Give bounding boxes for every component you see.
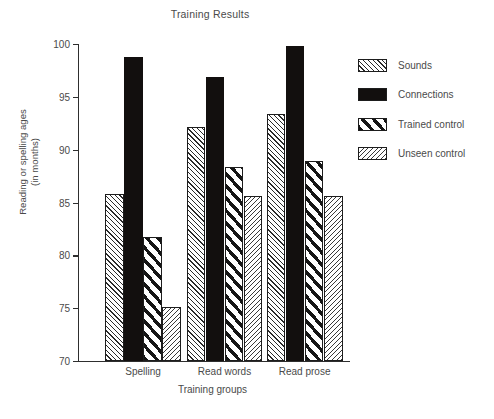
- legend-item-sounds[interactable]: Sounds: [358, 58, 490, 72]
- y-axis-title-line2: (in months): [29, 97, 41, 227]
- x-axis-line: [78, 361, 350, 362]
- legend-label: Trained control: [398, 119, 464, 130]
- y-axis-title: Reading or spelling ages (in months): [17, 97, 41, 227]
- y-tick-label: 90: [44, 144, 70, 155]
- x-group-label-read-prose: Read prose: [279, 366, 331, 377]
- plot-area: [79, 44, 346, 361]
- bar-sounds-read-words: [187, 127, 206, 361]
- y-tick-label: 95: [44, 91, 70, 102]
- x-axis-title: Training groups: [79, 384, 346, 395]
- x-group-label-read-words: Read words: [198, 366, 251, 377]
- chart-container: Training Results 707580859095100 Reading…: [0, 0, 494, 419]
- y-tick-label: 85: [44, 197, 70, 208]
- y-tick-label: 70: [44, 356, 70, 367]
- legend-label: Unseen control: [398, 148, 465, 159]
- bar-trained-control-spelling: [143, 237, 162, 361]
- bar-unseen-control-spelling: [162, 307, 181, 361]
- y-tick-mark: [73, 361, 79, 362]
- chart-legend: SoundsConnectionsTrained controlUnseen c…: [358, 58, 490, 176]
- bar-unseen-control-read-prose: [324, 196, 343, 361]
- bar-connections-spelling: [124, 57, 143, 361]
- legend-swatch-icon: [358, 118, 387, 131]
- legend-item-connections[interactable]: Connections: [358, 88, 490, 102]
- chart-title: Training Results: [0, 8, 420, 20]
- bar-sounds-read-prose: [267, 114, 286, 361]
- bar-trained-control-read-prose: [305, 161, 324, 361]
- legend-label: Connections: [398, 89, 454, 100]
- bar-sounds-spelling: [105, 194, 124, 361]
- legend-item-unseen-control[interactable]: Unseen control: [358, 147, 490, 161]
- bar-unseen-control-read-words: [244, 196, 263, 361]
- bar-trained-control-read-words: [225, 167, 244, 361]
- y-axis-title-line1: Reading or spelling ages: [17, 109, 28, 215]
- y-tick-label: 100: [44, 39, 70, 50]
- legend-label: Sounds: [398, 60, 432, 71]
- y-tick-label: 75: [44, 303, 70, 314]
- legend-item-trained-control[interactable]: Trained control: [358, 117, 490, 131]
- bar-connections-read-prose: [286, 46, 305, 361]
- legend-swatch-icon: [358, 88, 387, 101]
- legend-swatch-icon: [358, 59, 387, 72]
- legend-swatch-icon: [358, 147, 387, 160]
- x-group-label-spelling: Spelling: [125, 366, 161, 377]
- bar-connections-read-words: [206, 77, 225, 361]
- y-tick-label: 80: [44, 250, 70, 261]
